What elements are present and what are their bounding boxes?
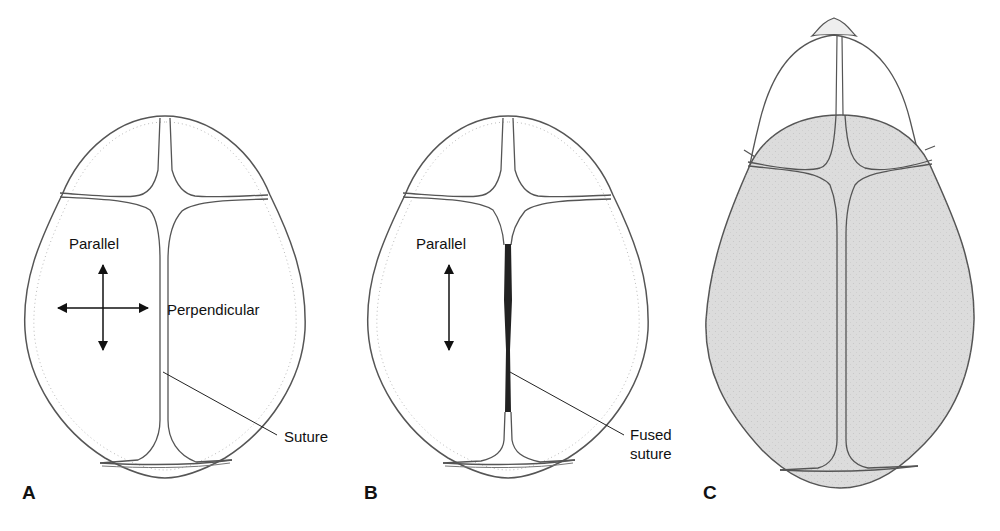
panel-label-a: A (22, 483, 36, 502)
panel-label-b: B (364, 483, 378, 502)
figure-canvas (0, 0, 1000, 531)
skull-b (368, 116, 649, 478)
fused-label-line1: Fused (630, 427, 672, 442)
parallel-label-b: Parallel (416, 236, 466, 251)
suture-label: Suture (284, 429, 328, 444)
fused-label-line2: suture (630, 446, 672, 461)
skull-c (706, 18, 974, 488)
skull-a (25, 116, 306, 478)
panel-label-c: C (703, 483, 717, 502)
parallel-label-a: Parallel (69, 236, 119, 251)
perpendicular-label: Perpendicular (167, 302, 260, 317)
skull-outline-a (25, 116, 306, 478)
